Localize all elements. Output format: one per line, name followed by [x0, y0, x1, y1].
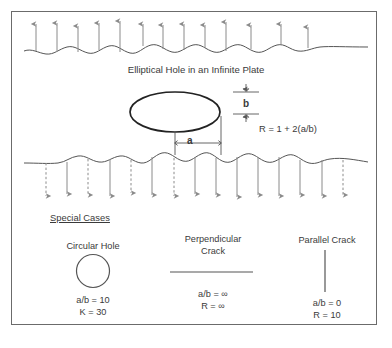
top-plate-edge	[24, 45, 368, 54]
case-title-circular-hole: Circular Hole	[47, 240, 139, 252]
bottom-tension-arrows	[46, 157, 343, 197]
case-ratio-perpendicular-crack: a/b = ∞	[160, 288, 266, 300]
case-title-perpendicular-crack: Perpendicular Crack	[160, 233, 266, 257]
dimension-b-label: b	[243, 98, 249, 110]
case-result-parallel-crack: R = 10	[275, 309, 379, 321]
case-values-perpendicular-crack: a/b = ∞ R = ∞	[160, 288, 266, 312]
bottom-plate-edge	[24, 153, 368, 164]
dimension-a-label: a	[187, 135, 193, 147]
case-title-perpendicular-crack-line2: Crack	[160, 245, 266, 257]
case-shape-circular-hole	[77, 255, 110, 288]
case-title-parallel-crack: Parallel Crack	[275, 234, 379, 246]
special-cases-heading: Special Cases	[50, 212, 110, 224]
case-title-perpendicular-crack-line1: Perpendicular	[160, 233, 266, 245]
case-ratio-parallel-crack: a/b = 0	[275, 297, 379, 309]
case-values-parallel-crack: a/b = 0 R = 10	[275, 297, 379, 321]
case-values-circular-hole: a/b = 10 K = 30	[47, 294, 139, 318]
top-tension-arrows	[36, 21, 308, 52]
elliptical-hole	[130, 92, 220, 132]
case-result-perpendicular-crack: R = ∞	[160, 300, 266, 312]
stress-concentration-formula: R = 1 + 2(a/b)	[259, 123, 317, 135]
case-result-circular-hole: K = 30	[47, 306, 139, 318]
figure-title: Elliptical Hole in an Infinite Plate	[0, 64, 392, 76]
figure-canvas: Elliptical Hole in an Infinite Plate b a…	[0, 0, 392, 348]
case-ratio-circular-hole: a/b = 10	[47, 294, 139, 306]
